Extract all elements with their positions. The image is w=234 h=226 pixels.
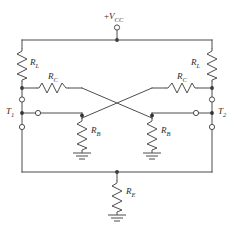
label-rb-left: RB [91,126,100,137]
label-t1: T1 [6,107,14,118]
label-t2: T2 [218,107,226,118]
label-vcc: +VCC [104,12,123,23]
t1-inline-terminal-circle[interactable] [35,110,40,115]
t2-upper-terminal-circle[interactable] [209,97,214,102]
t1-node-dot [20,111,24,115]
t1-lower-terminal-circle[interactable] [19,124,24,129]
cross-coupling-wires [82,88,152,118]
t2-lower-terminal-circle[interactable] [209,124,214,129]
resistor-rl-right-body [207,48,217,82]
resistor-re [108,172,126,221]
resistor-re-body [112,180,122,215]
t2-inline-terminal-circle[interactable] [193,110,198,115]
left-base-node-dot [80,114,84,118]
resistor-rl-left [17,48,27,82]
resistor-rl-left-body [17,48,27,82]
label-rc-left-subscript: C [54,76,58,83]
label-rc-right: RC [177,72,187,83]
label-rb-right: RB [161,126,170,137]
supply-branch [114,25,119,42]
resistor-rb-left-body [77,118,87,153]
resistor-rc-right [152,83,212,93]
label-re-subscript: E [132,191,136,198]
label-rc-right-subscript: C [183,76,187,83]
resistor-rl-right [207,48,217,82]
resistor-rb-right [143,118,161,159]
ground-base-right [143,153,161,159]
label-rb-right-subscript: B [167,130,171,137]
label-rl-right-subscript: L [197,62,201,69]
ground-emitter [108,215,126,221]
circuit-diagram-canvas: +VCC RL RL RC RC RB RB RE T1 T2 [0,0,234,226]
resistor-rc-left-body [36,83,69,93]
t1-upper-terminal-circle[interactable] [19,97,24,102]
label-rl-left-subscript: L [36,62,40,69]
vcc-terminal-circle[interactable] [114,25,119,30]
label-rl-right: RL [191,58,200,69]
label-vcc-subscript: CC [115,16,124,23]
label-t2-subscript: 2 [223,111,226,118]
base-rail-left [20,110,84,118]
resistor-rc-right-body [165,83,198,93]
resistor-rc-left [22,83,82,93]
right-base-node-dot [150,114,154,118]
label-rc-left: RC [48,72,58,83]
resistor-rb-left [73,118,91,159]
label-re: RE [126,187,135,198]
label-t1-subscript: 1 [11,111,14,118]
schematic-svg [0,0,234,226]
t2-node-dot [210,111,214,115]
ground-base-left [73,153,91,159]
label-rl-left: RL [30,58,39,69]
base-rail-right [150,110,214,118]
resistor-rb-right-body [147,118,157,153]
label-rb-left-subscript: B [97,130,101,137]
